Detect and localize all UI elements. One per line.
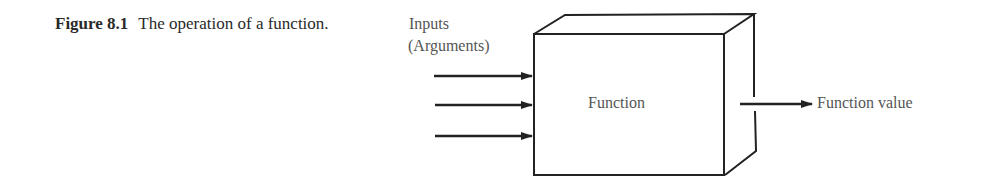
function-value-label: Function value [817,94,913,111]
arguments-label: (Arguments) [408,37,489,55]
input-arrows [434,76,532,136]
function-box [534,14,756,175]
function-diagram: Inputs (Arguments) Function Function val… [0,0,986,180]
box-top-face [534,14,754,34]
function-box-label: Function [588,94,645,111]
inputs-label: Inputs [409,15,449,33]
box-right-edge-lower [725,111,756,175]
